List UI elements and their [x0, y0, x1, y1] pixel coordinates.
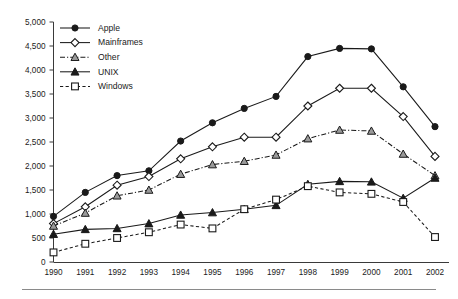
data-point-marker: [177, 221, 184, 228]
y-tick-label: 500: [32, 234, 46, 243]
legend-label: Other: [98, 52, 120, 62]
y-tick-label: 0: [41, 258, 46, 267]
data-point-marker: [241, 206, 248, 213]
legend-label: Windows: [98, 81, 133, 91]
chart-container: 05001,0001,5002,0002,5003,0003,5004,0004…: [0, 0, 458, 299]
y-tick-label: 5,000: [25, 18, 46, 27]
x-tick-label: 1997: [267, 268, 286, 277]
y-tick-label: 1,500: [25, 186, 46, 195]
data-point-marker: [304, 183, 311, 190]
data-point-marker: [209, 225, 216, 232]
data-point-marker: [50, 249, 57, 256]
x-tick-label: 2002: [426, 268, 445, 277]
x-tick-label: 1991: [76, 268, 95, 277]
data-point-marker: [114, 173, 120, 179]
data-point-marker: [178, 138, 184, 144]
y-tick-label: 2,500: [25, 138, 46, 147]
y-tick-label: 2,000: [25, 162, 46, 171]
data-point-marker: [145, 229, 152, 236]
data-point-marker: [336, 189, 343, 196]
x-tick-label: 2000: [362, 268, 381, 277]
x-tick-label: 2001: [394, 268, 413, 277]
legend-label: Apple: [98, 23, 120, 33]
data-point-marker: [400, 199, 407, 206]
data-point-marker: [72, 83, 79, 90]
data-point-marker: [114, 235, 121, 242]
data-point-marker: [305, 53, 311, 59]
x-tick-label: 1994: [172, 268, 191, 277]
chart-background: [0, 0, 458, 299]
x-tick-label: 1995: [203, 268, 222, 277]
x-tick-label: 1999: [331, 268, 350, 277]
data-point-marker: [50, 213, 56, 219]
x-tick-label: 1990: [44, 268, 63, 277]
y-tick-label: 1,000: [25, 210, 46, 219]
x-tick-label: 1998: [299, 268, 318, 277]
x-tick-label: 1992: [108, 268, 127, 277]
data-point-marker: [273, 93, 279, 99]
data-point-marker: [72, 25, 78, 31]
y-tick-label: 3,000: [25, 114, 46, 123]
legend-label: Mainframes: [98, 37, 143, 47]
y-tick-label: 4,000: [25, 66, 46, 75]
line-chart: 05001,0001,5002,0002,5003,0003,5004,0004…: [0, 0, 458, 299]
legend-label: UNIX: [98, 67, 119, 77]
data-point-marker: [400, 84, 406, 90]
data-point-marker: [368, 190, 375, 197]
data-point-marker: [273, 196, 280, 203]
data-point-marker: [209, 120, 215, 126]
y-tick-label: 3,500: [25, 90, 46, 99]
data-point-marker: [432, 124, 438, 130]
data-point-marker: [368, 46, 374, 52]
y-tick-label: 4,500: [25, 42, 46, 51]
data-point-marker: [337, 45, 343, 51]
data-point-marker: [82, 240, 89, 247]
data-point-marker: [241, 105, 247, 111]
x-tick-label: 1993: [140, 268, 159, 277]
data-point-marker: [432, 234, 439, 241]
data-point-marker: [82, 189, 88, 195]
x-tick-label: 1996: [235, 268, 254, 277]
